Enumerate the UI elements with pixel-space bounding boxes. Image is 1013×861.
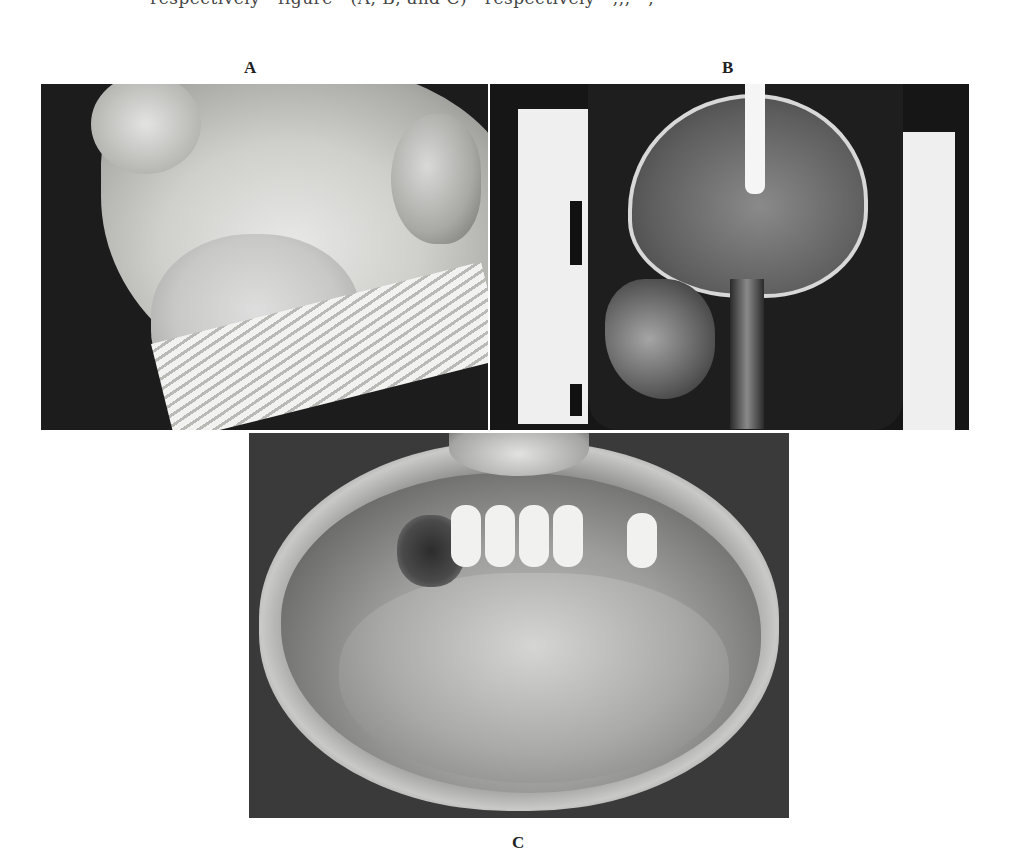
tooth: [553, 505, 583, 567]
panel-label-a: A: [244, 58, 256, 78]
panel-label-b: B: [722, 58, 733, 78]
tooth: [485, 505, 515, 567]
cervical-spine-region: [730, 279, 764, 429]
clipped-body-text-line: respectively · figure · (A, B, and C) · …: [150, 0, 930, 8]
ear-region: [391, 114, 481, 244]
tooth: [627, 513, 657, 568]
tooth: [519, 505, 549, 567]
film-marker-lower: [570, 384, 582, 416]
tongue-floor-region: [339, 573, 729, 783]
film-border-left: [518, 109, 588, 424]
head-holder-rod: [745, 84, 765, 194]
figure-panel-c-intraoral-photo: [249, 433, 789, 818]
tooth: [451, 505, 481, 567]
panel-label-c: C: [512, 833, 524, 853]
figure-panel-b-skull-xray: [490, 84, 969, 430]
film-marker-upper: [570, 201, 582, 265]
figure-panel-a-face-photo: [41, 84, 488, 430]
film-border-right: [903, 132, 955, 430]
